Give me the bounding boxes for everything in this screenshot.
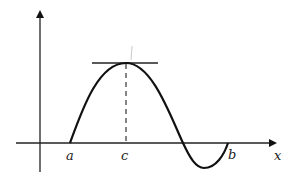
label-c: c — [121, 148, 129, 163]
function-curve — [70, 63, 228, 168]
label-b: b — [228, 147, 236, 162]
function-graph: a c b x — [0, 0, 294, 180]
peak-tick — [131, 46, 132, 60]
label-a: a — [66, 148, 74, 163]
label-x: x — [274, 148, 282, 163]
